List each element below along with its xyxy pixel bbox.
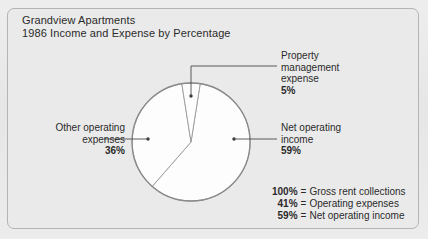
callout-other-operating-expenses: Other operating expenses 36%	[56, 122, 126, 157]
callout-net-operating-income: Net operating income 59%	[281, 122, 341, 157]
legend-row: 100% = Gross rent collections	[272, 186, 406, 198]
legend-row-1-label: Operating expenses	[309, 198, 405, 210]
legend-row: 59% = Net operating income	[272, 210, 406, 222]
callout-pm-percent: 5%	[281, 85, 339, 97]
callout-ooe-percent: 36%	[56, 145, 126, 157]
callout-noi-line-2: income	[281, 134, 341, 146]
legend-row-1-percent: 41%	[272, 198, 301, 210]
legend-row-2-percent: 59%	[272, 210, 301, 222]
callout-ooe-line-1: Other operating	[56, 122, 126, 134]
callout-pm-line-2: management	[281, 62, 339, 74]
legend-table: 100% = Gross rent collections 41% = Oper…	[272, 186, 406, 222]
legend-row-2-label: Net operating income	[309, 210, 405, 222]
legend-row-0-percent: 100%	[272, 186, 301, 198]
legend-row-0-equals: =	[301, 186, 310, 198]
callout-pm-line-3: expense	[281, 73, 339, 85]
callout-property-management-expense: Property management expense 5%	[281, 50, 339, 96]
legend-row-1-equals: =	[301, 198, 310, 210]
callout-noi-line-1: Net operating	[281, 122, 341, 134]
chart-page: Grandview Apartments 1986 Income and Exp…	[0, 0, 428, 239]
callout-ooe-line-2: expenses	[56, 134, 126, 146]
callout-noi-percent: 59%	[281, 145, 341, 157]
legend: 100% = Gross rent collections 41% = Oper…	[272, 186, 406, 222]
callout-pm-line-1: Property	[281, 50, 339, 62]
legend-rows: 100% = Gross rent collections 41% = Oper…	[272, 186, 406, 222]
legend-row-0-label: Gross rent collections	[309, 186, 405, 198]
legend-row: 41% = Operating expenses	[272, 198, 406, 210]
legend-row-2-equals: =	[301, 210, 310, 222]
